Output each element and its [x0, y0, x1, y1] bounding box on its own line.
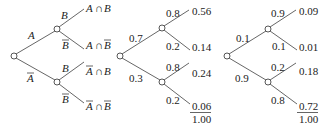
- branch-label-a: A: [27, 29, 35, 41]
- outcome-prob: 0.06: [192, 100, 212, 112]
- svg-text:B: B: [104, 2, 111, 14]
- branch-prob: 0.1: [272, 40, 286, 52]
- branch-prob: 0.9: [271, 7, 285, 19]
- branch-prob: 0.2: [166, 40, 180, 52]
- root-node: [11, 53, 17, 59]
- total-prob: 1.00: [299, 113, 319, 125]
- probability-tree-diagrams: A A B B B B A ∩ B A ∩ B A ∩ B A: [0, 0, 330, 127]
- outcome-prob: 0.24: [192, 67, 212, 79]
- outcome-prob: 0.01: [299, 41, 318, 53]
- branch-prob: 0.7: [129, 32, 143, 44]
- branch-prob: 0.2: [271, 61, 285, 73]
- node-lower: [159, 79, 165, 85]
- svg-text:A: A: [85, 2, 93, 14]
- svg-text:∩: ∩: [95, 39, 103, 51]
- branch-label-not-a: A: [26, 72, 34, 84]
- svg-text:∩: ∩: [95, 2, 103, 14]
- branch-label-b: B: [62, 62, 69, 74]
- svg-text:B: B: [104, 65, 111, 77]
- node-not-a: [54, 79, 60, 85]
- branch-prob: 0.8: [166, 61, 180, 73]
- outcome-not-a-and-b: A ∩ B: [85, 65, 111, 77]
- node-upper: [265, 26, 271, 32]
- node-upper: [159, 25, 165, 31]
- tree-probabilities-2: 0.1 0.9 0.9 0.1 0.2 0.8 0.09 0.01 0.18 0…: [224, 5, 319, 125]
- svg-text:∩: ∩: [95, 65, 103, 77]
- branch-label-not-b: B: [62, 93, 69, 105]
- total-prob: 1.00: [192, 113, 212, 125]
- branch-prob: 0.1: [236, 32, 250, 44]
- root-node: [224, 53, 230, 59]
- svg-text:A: A: [85, 39, 93, 51]
- tree-symbolic: A A B B B B A ∩ B A ∩ B A ∩ B A: [11, 2, 111, 112]
- branch-prob: 0.9: [235, 72, 249, 84]
- node-a: [54, 26, 60, 32]
- svg-text:A: A: [85, 100, 93, 112]
- outcome-prob: 0.09: [299, 5, 319, 17]
- svg-text:A: A: [85, 65, 93, 77]
- branch-prob: 0.8: [166, 7, 180, 19]
- node-lower: [265, 79, 271, 85]
- outcome-prob: 0.56: [192, 5, 212, 17]
- branch-label-b: B: [61, 9, 68, 21]
- root-node: [117, 53, 123, 59]
- branch-prob: 0.3: [129, 72, 143, 84]
- outcome-prob: 0.72: [299, 100, 318, 112]
- outcome-prob: 0.18: [299, 65, 319, 77]
- branch-prob: 0.8: [271, 94, 285, 106]
- tree-probabilities-1: 0.7 0.3 0.8 0.2 0.8 0.2 0.56 0.14 0.24 0…: [117, 5, 212, 125]
- branch-prob: 0.2: [166, 94, 180, 106]
- svg-text:B: B: [104, 39, 111, 51]
- outcome-not-a-and-not-b: A ∩ B: [85, 100, 111, 112]
- svg-text:∩: ∩: [95, 100, 103, 112]
- branch-label-not-b: B: [62, 39, 69, 51]
- outcome-a-and-not-b: A ∩ B: [85, 39, 111, 51]
- outcome-a-and-b: A ∩ B: [85, 2, 111, 14]
- outcome-prob: 0.14: [192, 41, 212, 53]
- svg-text:B: B: [104, 100, 111, 112]
